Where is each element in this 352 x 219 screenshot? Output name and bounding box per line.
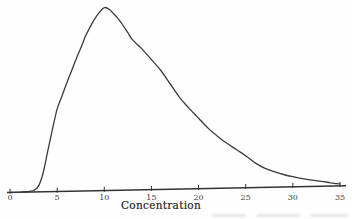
x-tick-label: 25 <box>241 193 251 202</box>
scan-artifact-bottom <box>212 214 246 217</box>
x-tick-label: 30 <box>288 193 298 202</box>
x-axis-label: Concentration <box>98 200 224 211</box>
x-tick-label: 5 <box>55 193 60 202</box>
chart-canvas: 05101520253035 <box>0 0 352 219</box>
distribution-curve <box>10 7 340 192</box>
scan-artifact-bottom <box>310 214 348 217</box>
x-axis-line <box>7 186 346 193</box>
distribution-chart: 05101520253035 Concentration <box>0 0 352 219</box>
x-tick-label: 35 <box>335 193 345 202</box>
x-tick-label: 0 <box>7 193 12 202</box>
scan-artifact-bottom <box>256 214 300 217</box>
